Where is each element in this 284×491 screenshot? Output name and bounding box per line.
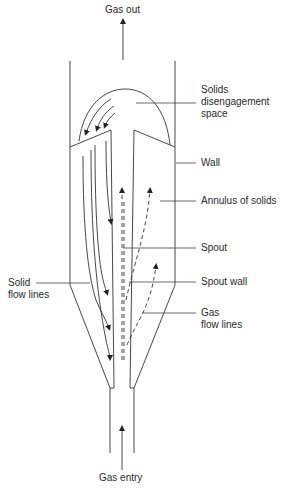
label-solids-disengagement-line2: disengagement <box>201 96 269 108</box>
label-wall: Wall <box>201 157 220 169</box>
fountain-arrow-1 <box>86 99 111 133</box>
solid-flow-line-2 <box>95 145 107 293</box>
label-solids-disengagement-line3: space <box>201 108 269 120</box>
label-solid-flow-line2: flow lines <box>8 289 49 301</box>
vessel-wall-right <box>134 61 175 453</box>
label-gas-entry: Gas entry <box>99 472 142 484</box>
label-gas-flow-lines: Gas flow lines <box>201 307 242 331</box>
fountain-arrow-3 <box>105 113 115 126</box>
label-solids-disengagement-line1: Solids <box>201 84 269 96</box>
label-gas-out: Gas out <box>105 4 140 16</box>
label-spout: Spout <box>201 242 227 254</box>
solid-flow-line-1 <box>83 156 109 328</box>
spout-wall-right <box>130 130 134 388</box>
label-gas-flow-line2: flow lines <box>201 319 242 331</box>
vessel-wall-left <box>70 61 110 453</box>
solid-flow-line-3 <box>106 141 111 222</box>
spouted-bed-diagram <box>0 0 284 491</box>
label-solids-disengagement: Solids disengagement space <box>201 84 269 120</box>
spout-wall-left <box>111 130 114 388</box>
label-annulus: Annulus of solids <box>201 195 277 207</box>
label-spout-wall: Spout wall <box>201 276 247 288</box>
label-solid-flow-line1: Solid <box>8 277 49 289</box>
label-gas-flow-line1: Gas <box>201 307 242 319</box>
label-solid-flow-lines: Solid flow lines <box>8 277 49 301</box>
fountain-dome <box>79 89 170 145</box>
annulus-top-left <box>70 130 111 147</box>
gas-flow-line-outer-1 <box>126 190 150 300</box>
